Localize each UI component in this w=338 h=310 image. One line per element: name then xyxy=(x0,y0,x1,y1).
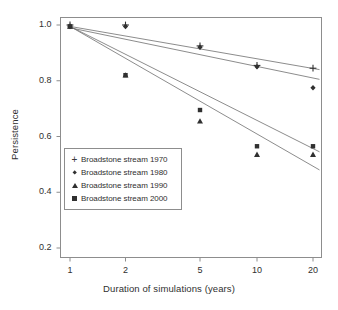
legend-item-label: Broadstone stream 2000 xyxy=(81,194,168,203)
legend-item-label: Broadstone stream 1970 xyxy=(81,155,168,164)
legend-item: + Broadstone stream 1970 xyxy=(68,153,178,166)
x-axis-ticks xyxy=(70,258,313,262)
legend-item: Broadstone stream 1980 xyxy=(68,166,178,179)
legend-item-label: Broadstone stream 1990 xyxy=(81,181,168,190)
y-tick-label: 0.8 xyxy=(22,75,52,85)
x-tick-label: 10 xyxy=(242,265,272,275)
legend-item-label: Broadstone stream 1980 xyxy=(81,168,168,177)
x-tick-label: 20 xyxy=(298,265,328,275)
x-tick-label: 2 xyxy=(111,265,141,275)
y-tick-label: 1.0 xyxy=(22,19,52,29)
y-tick-label: 0.6 xyxy=(22,131,52,141)
y-axis-ticks xyxy=(57,25,61,248)
data-markers xyxy=(67,22,317,157)
plus-marker-icon: + xyxy=(68,153,81,166)
x-axis-title: Duration of simulations (years) xyxy=(0,283,338,294)
x-tick-label: 1 xyxy=(55,265,85,275)
y-tick-label: 0.4 xyxy=(22,186,52,196)
x-tick-label: 5 xyxy=(185,265,215,275)
y-axis-title: Persistence xyxy=(9,75,20,195)
square-marker-icon xyxy=(68,192,81,205)
legend-item: Broadstone stream 2000 xyxy=(68,192,178,205)
diamond-marker-icon xyxy=(68,166,81,179)
chart-figure: Duration of simulations (years) Persiste… xyxy=(0,0,338,310)
chart-legend: + Broadstone stream 1970 Broadstone stre… xyxy=(64,148,182,210)
y-tick-label: 0.2 xyxy=(22,242,52,252)
triangle-marker-icon xyxy=(68,179,81,192)
legend-item: Broadstone stream 1990 xyxy=(68,179,178,192)
plot-frame xyxy=(61,18,322,258)
